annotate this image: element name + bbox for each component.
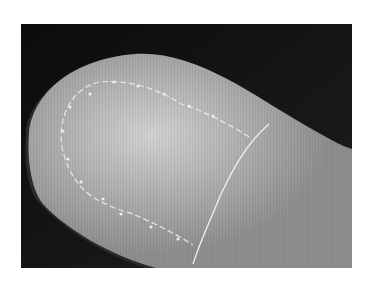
photo-render	[21, 24, 352, 268]
photograph	[21, 24, 352, 268]
